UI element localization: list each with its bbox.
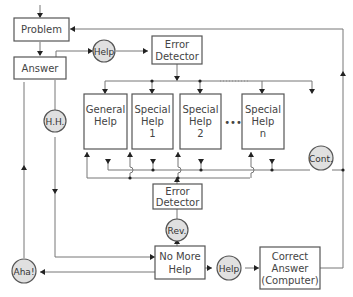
general-help-box: General Help	[84, 94, 127, 149]
correct-answer-box: Correct Answer (Computer)	[260, 247, 320, 289]
svg-text:Help: Help	[219, 264, 240, 274]
hh-circle: H.H.	[44, 110, 66, 132]
svg-text:General: General	[86, 104, 125, 115]
error-detector-bottom-box: Error Detector	[153, 184, 202, 209]
svg-text:Help: Help	[94, 47, 115, 57]
svg-text:Help: Help	[169, 264, 192, 275]
special-help-2-box: Special Help 2	[180, 94, 221, 149]
svg-text:Special: Special	[182, 104, 218, 115]
svg-text:Special: Special	[134, 104, 170, 115]
svg-text:Error: Error	[165, 186, 190, 197]
help-circle-bottom: Help	[217, 256, 241, 280]
svg-text:2: 2	[197, 128, 203, 139]
aha-circle: Aha!	[12, 259, 36, 283]
svg-text:Answer: Answer	[22, 63, 60, 74]
cont-circle: Cont.	[309, 146, 333, 170]
svg-text:Aha!: Aha!	[14, 267, 35, 277]
svg-text:Help: Help	[94, 116, 117, 127]
svg-text:Error: Error	[165, 39, 190, 50]
svg-text:Detector: Detector	[156, 197, 200, 208]
special-help-n-box: Special Help n	[242, 94, 284, 149]
svg-text:Answer: Answer	[272, 263, 310, 274]
svg-text:(Computer): (Computer)	[261, 275, 319, 286]
special-help-1-box: Special Help 1	[132, 94, 173, 149]
svg-text:Help: Help	[189, 116, 212, 127]
help-circle-top: Help	[93, 40, 115, 62]
svg-text:Help: Help	[141, 116, 164, 127]
rev-circle: Rev.	[166, 219, 188, 241]
svg-text:Correct: Correct	[272, 251, 309, 262]
svg-text:Special: Special	[245, 104, 281, 115]
svg-text:Cont.: Cont.	[309, 154, 333, 164]
error-detector-top-box: Error Detector	[152, 36, 202, 64]
svg-text:Detector: Detector	[155, 51, 199, 62]
svg-text:Problem: Problem	[21, 24, 62, 35]
answer-box: Answer	[14, 57, 66, 79]
ellipsis-more-helps: •••	[224, 117, 242, 128]
svg-text:H.H.: H.H.	[46, 117, 65, 127]
svg-text:Rev.: Rev.	[168, 226, 187, 236]
svg-text:Help: Help	[252, 116, 275, 127]
svg-text:1: 1	[149, 128, 155, 139]
help-flow-diagram: Problem Answer Help Error Detector Gener…	[0, 0, 353, 297]
no-more-help-box: No More Help	[155, 246, 205, 279]
svg-text:No More: No More	[159, 251, 201, 262]
problem-box: Problem	[14, 18, 69, 41]
svg-text:n: n	[260, 128, 266, 139]
